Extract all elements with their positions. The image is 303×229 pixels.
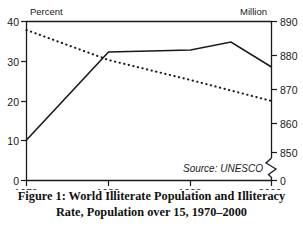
right-axis-ticks: 890 880 870 860 850 0: [272, 16, 298, 187]
chart-plot-area: 40 30 20 10 0 890 880 870 860 850 0: [0, 0, 303, 190]
left-tick-label-30: 30: [7, 56, 19, 68]
right-tick-label-0: 0: [280, 175, 286, 187]
left-tick-label-40: 40: [7, 16, 19, 28]
right-tick-label-880: 880: [280, 50, 298, 62]
right-axis-break-icon: [266, 158, 276, 181]
figure-caption: Figure 1: World Illiterate Population an…: [0, 189, 303, 220]
left-tick-label-20: 20: [7, 96, 19, 108]
left-axis-ticks: 40 30 20 10 0: [7, 16, 26, 187]
series-line-illiteracy-rate: [27, 30, 272, 101]
right-tick-label-890: 890: [280, 16, 298, 28]
left-axis-unit-label: Percent: [30, 6, 63, 17]
figure-container: 40 30 20 10 0 890 880 870 860 850 0: [0, 0, 303, 229]
chart-svg: 40 30 20 10 0 890 880 870 860 850 0: [0, 0, 303, 190]
figure-caption-line-1: Figure 1: World Illiterate Population an…: [0, 189, 303, 205]
right-tick-label-870: 870: [280, 84, 298, 96]
right-axis-unit-label: Million: [240, 6, 267, 17]
figure-caption-line-2: Rate, Population over 15, 1970–2000: [0, 205, 303, 221]
source-annotation: Source: UNESCO: [183, 163, 263, 174]
right-tick-label-860: 860: [280, 118, 298, 130]
left-tick-label-0: 0: [13, 175, 19, 187]
left-tick-label-10: 10: [7, 135, 19, 147]
right-tick-label-850: 850: [280, 147, 298, 159]
